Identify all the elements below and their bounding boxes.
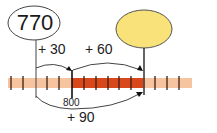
start-value: 770: [10, 10, 60, 36]
jump-arc-90: [36, 93, 141, 109]
jump-arc-60: [73, 63, 141, 70]
arrowhead-90: [136, 92, 143, 97]
jump-label-90: + 90: [67, 109, 95, 125]
jump-label-30: + 30: [38, 41, 66, 57]
jump-label-60: + 60: [85, 41, 113, 57]
answer-oval[interactable]: [116, 10, 172, 48]
jump-arc-30: [36, 64, 70, 70]
arrowhead-60: [137, 65, 143, 71]
tick-label-800: 800: [63, 97, 80, 108]
